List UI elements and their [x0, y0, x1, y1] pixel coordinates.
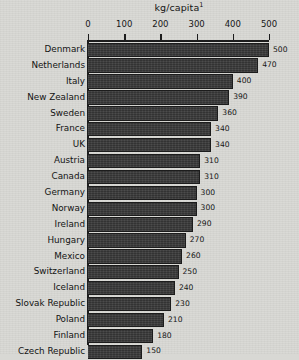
bar	[88, 170, 200, 184]
bar	[88, 249, 182, 263]
bar-category-label: Italy	[66, 75, 85, 88]
bar-fill	[88, 217, 193, 231]
bar-row: Norway300	[0, 201, 299, 217]
bar-fill	[88, 265, 179, 279]
bar	[88, 106, 218, 120]
bar-fill	[88, 186, 197, 200]
bar	[88, 122, 211, 136]
bar	[88, 265, 179, 279]
bar	[88, 345, 142, 359]
bar-category-label: Poland	[56, 313, 85, 326]
x-axis-tick-mark	[233, 34, 234, 40]
bar-category-label: Austria	[54, 154, 85, 167]
bar-value-label: 210	[168, 315, 183, 324]
bar-value-label: 290	[197, 219, 212, 228]
bar	[88, 297, 171, 311]
bar-row: Switzerland250	[0, 264, 299, 280]
x-axis-tick-mark	[160, 34, 161, 40]
bar-category-label: Finland	[54, 329, 85, 342]
bar	[88, 58, 258, 72]
x-axis-tick-mark	[269, 34, 270, 40]
x-axis-tick-label: 400	[225, 19, 241, 29]
bar-category-label: Netherlands	[31, 59, 85, 72]
bar-value-label: 340	[215, 140, 230, 149]
x-axis-tick-label: 300	[188, 19, 204, 29]
bar	[88, 217, 193, 231]
bar-value-label: 300	[201, 203, 216, 212]
x-axis-tick-label: 0	[85, 19, 90, 29]
bar-row: Iceland240	[0, 280, 299, 296]
bar-value-label: 230	[175, 299, 190, 308]
bar-value-label: 300	[201, 188, 216, 197]
x-axis-tick-labels: 0100200300400500	[0, 19, 299, 31]
x-axis-tick-label: 100	[116, 19, 132, 29]
bar-fill	[88, 297, 171, 311]
bar-value-label: 340	[215, 124, 230, 133]
bar-row: Finland180	[0, 328, 299, 344]
bar-fill	[88, 106, 218, 120]
bar-fill	[88, 281, 175, 295]
chart-title-text: kg/capita	[154, 2, 199, 13]
bar-value-label: 240	[179, 283, 194, 292]
bar-fill	[88, 90, 229, 104]
bar-category-label: Czech Republic	[18, 345, 85, 358]
x-axis-tick-mark	[124, 34, 125, 40]
bar-row: Hungary270	[0, 233, 299, 249]
bar	[88, 74, 233, 88]
bar-value-label: 500	[273, 45, 288, 54]
x-axis-tick-mark	[197, 34, 198, 40]
bar-category-label: Canada	[52, 170, 85, 183]
bar-fill	[88, 313, 164, 327]
bar	[88, 90, 229, 104]
bar	[88, 281, 175, 295]
bar-row: Austria310	[0, 153, 299, 169]
x-axis-tick-label: 500	[261, 19, 277, 29]
bar-fill	[88, 249, 182, 263]
chart-title-footnote-marker: 1	[199, 1, 203, 9]
bar-row: Poland210	[0, 312, 299, 328]
bar-fill	[88, 43, 269, 57]
bar-value-label: 180	[157, 331, 172, 340]
bar-row: Mexico260	[0, 249, 299, 265]
bar-row: Italy400	[0, 74, 299, 90]
bar-fill	[88, 154, 200, 168]
bar-row: Netherlands470	[0, 58, 299, 74]
bar-value-label: 250	[183, 267, 198, 276]
x-axis-tick-label: 200	[152, 19, 168, 29]
bar-category-label: Iceland	[53, 281, 85, 294]
bar-rows: Denmark500Netherlands470Italy400New Zeal…	[0, 42, 299, 360]
bar-category-label: Sweden	[50, 107, 85, 120]
bar-row: France340	[0, 121, 299, 137]
bar-category-label: New Zealand	[27, 91, 85, 104]
bar-value-label: 270	[190, 235, 205, 244]
bar-row: Germany300	[0, 185, 299, 201]
bar-category-label: Denmark	[45, 43, 85, 56]
bar-value-label: 310	[204, 156, 219, 165]
bar-value-label: 260	[186, 251, 201, 260]
bar-row: Slovak Republic230	[0, 296, 299, 312]
bar-value-label: 400	[237, 76, 252, 85]
bar	[88, 329, 153, 343]
bar	[88, 43, 269, 57]
bar	[88, 313, 164, 327]
bar-row: Ireland290	[0, 217, 299, 233]
bar-fill	[88, 138, 211, 152]
x-axis-tick-mark	[88, 34, 89, 40]
bar-fill	[88, 345, 142, 359]
bar-row: UK340	[0, 137, 299, 153]
bar-category-label: Ireland	[55, 218, 85, 231]
bar-value-label: 150	[146, 346, 161, 355]
bar-fill	[88, 74, 233, 88]
bar-category-label: Hungary	[47, 234, 85, 247]
bar-row: Sweden360	[0, 106, 299, 122]
bar-category-label: France	[56, 122, 85, 135]
bar-row: New Zealand390	[0, 90, 299, 106]
bar-category-label: Slovak Republic	[16, 297, 86, 310]
bar-value-label: 470	[262, 60, 277, 69]
bar	[88, 154, 200, 168]
bar-category-label: Mexico	[54, 250, 85, 263]
bar-row: Czech Republic150	[0, 344, 299, 360]
bar-value-label: 310	[204, 172, 219, 181]
bar-fill	[88, 170, 200, 184]
